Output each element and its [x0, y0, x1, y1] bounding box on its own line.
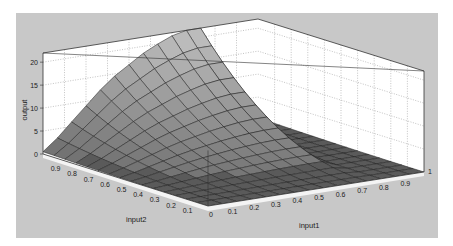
x-tick-label: 0.3 [271, 201, 281, 208]
y-tick-label: 0.7 [84, 176, 94, 183]
y-tick-label: 0.6 [100, 181, 110, 188]
x-tick-label: 0.2 [249, 204, 259, 211]
figure-canvas: 051015200.10.20.30.40.50.60.70.80.900.10… [16, 13, 438, 238]
x-tick-label: 0.9 [401, 180, 411, 187]
y-tick-label: 0.1 [183, 207, 193, 214]
x-tick-label: 0.4 [293, 197, 303, 204]
z-tick-label: 15 [30, 82, 38, 89]
x-tick-label: 0.8 [379, 184, 389, 191]
z-tick-label: 0 [34, 151, 38, 158]
z-tick-label: 20 [30, 59, 38, 66]
x-axis-label: input1 [299, 221, 319, 230]
y-axis-label: input2 [126, 215, 146, 224]
y-tick-label: 0.3 [150, 196, 160, 203]
y-tick-label: 0.4 [133, 191, 143, 198]
y-tick-label: 0.9 [51, 165, 61, 172]
surface-plot: 051015200.10.20.30.40.50.60.70.80.900.10… [16, 13, 438, 238]
x-tick-label: 0.5 [314, 194, 324, 201]
x-tick-label: 1 [428, 168, 432, 175]
y-tick-label: 0.2 [166, 202, 176, 209]
z-tick-label: 5 [34, 128, 38, 135]
z-tick-label: 10 [30, 105, 38, 112]
y-tick-label: 0.8 [67, 170, 77, 177]
x-tick-label: 0 [209, 211, 213, 218]
x-tick-label: 0.1 [228, 208, 238, 215]
z-axis-label: output [20, 99, 29, 121]
y-tick-label: 0.5 [117, 186, 127, 193]
x-tick-label: 0.7 [357, 187, 367, 194]
x-tick-label: 0.6 [336, 191, 346, 198]
